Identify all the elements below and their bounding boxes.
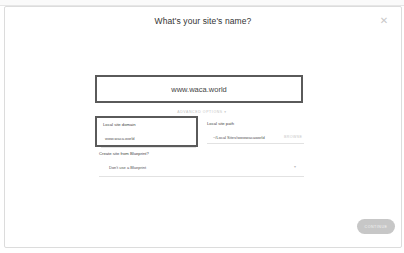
local-path-label: Local site path (207, 121, 234, 126)
local-domain-underline (101, 147, 196, 148)
site-name-field[interactable] (95, 75, 303, 103)
local-path-underline (207, 143, 304, 144)
blueprint-select[interactable]: Don't use a Blueprint ▾ (99, 160, 304, 174)
local-domain-input[interactable]: www.waca.world (105, 136, 135, 141)
browse-path-button[interactable]: BROWSE (284, 135, 302, 139)
site-name-input[interactable] (97, 84, 301, 95)
continue-button[interactable]: CONTINUE (357, 219, 395, 234)
blueprint-selected-value: Don't use a Blueprint (109, 165, 146, 170)
local-domain-label: Local site domain (103, 122, 136, 127)
blueprint-underline (99, 176, 304, 177)
local-domain-field[interactable]: Local site domain www.waca.world (95, 116, 198, 147)
advanced-options-toggle[interactable]: ADVANCED OPTIONS ▾ (0, 110, 404, 114)
new-site-dialog: What's your site's name? ✕ (4, 6, 402, 248)
local-path-input[interactable]: ~/Local Sites/wwwwacaworld (213, 135, 265, 140)
close-icon[interactable]: ✕ (379, 16, 389, 26)
dialog-title: What's your site's name? (5, 16, 401, 26)
blueprint-label: Create site from Blueprint? (99, 151, 149, 156)
chevron-down-icon: ▾ (294, 164, 296, 169)
